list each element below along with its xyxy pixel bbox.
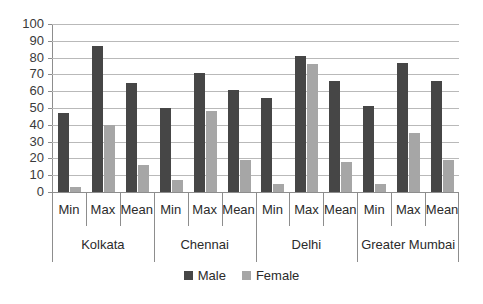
bar-female-max-1 [104, 125, 115, 192]
bar-female-min-0 [70, 187, 81, 192]
bar-male-max-7 [295, 56, 306, 192]
y-axis-label-10: 10 [10, 168, 44, 181]
legend-swatch-female-icon [242, 271, 251, 280]
y-axis-label-30: 30 [10, 135, 44, 148]
legend-label: Male [198, 268, 226, 283]
bar-female-max-4 [206, 111, 217, 192]
bar-male-min-0 [58, 113, 69, 192]
bar-male-min-3 [160, 108, 171, 192]
bar-male-max-4 [194, 73, 205, 192]
bar-male-min-6 [261, 98, 272, 192]
x-axis-category-min-9: Min [357, 193, 391, 226]
y-axis-label-60: 60 [10, 84, 44, 97]
bar-group [391, 24, 425, 192]
bar-male-mean-8 [329, 81, 340, 192]
x-axis-category-mean-11: Mean [425, 193, 459, 226]
bar-female-mean-2 [138, 165, 149, 192]
x-axis-category-labels: MinMaxMeanMinMaxMeanMinMaxMeanMinMaxMean [52, 193, 459, 226]
x-axis-group-delhi: Delhi [256, 226, 358, 262]
legend-swatch-male-icon [184, 271, 193, 280]
x-axis-category-min-0: Min [52, 193, 86, 226]
bar-group [188, 24, 222, 192]
x-axis-category-min-6: Min [256, 193, 290, 226]
bar-group [425, 24, 459, 192]
x-axis-category-mean-5: Mean [222, 193, 256, 226]
bar-male-min-9 [363, 106, 374, 192]
y-axis-label-80: 80 [10, 51, 44, 64]
bar-groups [53, 24, 459, 192]
bar-female-mean-8 [341, 162, 352, 192]
bar-group [121, 24, 155, 192]
x-axis-group-kolkata: Kolkata [52, 226, 154, 262]
bar-group [256, 24, 290, 192]
bar-male-mean-2 [126, 83, 137, 192]
bar-female-min-9 [375, 184, 386, 192]
bar-male-max-10 [397, 63, 408, 192]
bar-male-mean-5 [228, 90, 239, 192]
bar-male-mean-11 [431, 81, 442, 192]
x-axis-category-mean-2: Mean [120, 193, 154, 226]
bar-group [222, 24, 256, 192]
x-axis-group-chennai: Chennai [154, 226, 256, 262]
bar-group [290, 24, 324, 192]
x-axis-category-max-1: Max [86, 193, 120, 226]
x-axis-group-labels: KolkataChennaiDelhiGreater Mumbai [52, 226, 459, 262]
bar-group [87, 24, 121, 192]
bar-female-mean-11 [443, 160, 454, 192]
x-axis-category-max-7: Max [289, 193, 323, 226]
y-axis-label-100: 100 [10, 17, 44, 30]
y-axis-label-70: 70 [10, 67, 44, 80]
y-axis-label-0: 0 [10, 185, 44, 198]
bar-group [324, 24, 358, 192]
legend-label: Female [256, 268, 299, 283]
bar-group [357, 24, 391, 192]
x-axis-category-min-3: Min [154, 193, 188, 226]
legend-item-male[interactable]: Male [184, 268, 226, 283]
bar-female-mean-5 [240, 160, 251, 192]
x-axis-group-greater-mumbai: Greater Mumbai [357, 226, 459, 262]
y-axis-label-50: 50 [10, 101, 44, 114]
bar-group [154, 24, 188, 192]
y-axis-label-20: 20 [10, 151, 44, 164]
legend-item-female[interactable]: Female [242, 268, 299, 283]
x-axis-category-max-10: Max [391, 193, 425, 226]
bar-chart: 1009080706050403020100 MinMaxMeanMinMaxM… [0, 0, 483, 304]
bar-female-max-10 [409, 133, 420, 192]
y-axis-label-90: 90 [10, 34, 44, 47]
bar-female-max-7 [307, 64, 318, 192]
x-axis-category-max-4: Max [188, 193, 222, 226]
bar-group [53, 24, 87, 192]
chart-legend: MaleFemale [0, 268, 483, 283]
bar-female-min-3 [172, 180, 183, 192]
y-axis-label-40: 40 [10, 118, 44, 131]
x-axis-category-mean-8: Mean [323, 193, 357, 226]
bar-male-max-1 [92, 46, 103, 192]
bar-female-min-6 [273, 184, 284, 192]
